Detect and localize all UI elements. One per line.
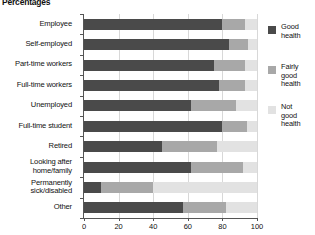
y-tick (80, 34, 84, 35)
category-label: Looking after home/family (30, 158, 72, 175)
bar-row (84, 100, 257, 111)
bar-row (84, 141, 257, 152)
y-tick (80, 116, 84, 117)
bar-segment (84, 202, 183, 213)
bar-segment (222, 19, 244, 30)
legend-swatch (268, 106, 276, 114)
legend-label: Good health (281, 23, 301, 40)
bar-segment (191, 162, 243, 173)
y-tick (80, 14, 84, 15)
bar-segment (222, 121, 246, 132)
chart-container: Percentages 020406080100 EmployeeSelf-em… (0, 0, 315, 235)
bar-segment (245, 19, 257, 30)
bar-segment (162, 141, 217, 152)
x-tick-label: 100 (251, 222, 264, 231)
x-tick-label: 40 (149, 222, 157, 231)
bar-row (84, 39, 257, 50)
bar-segment (84, 100, 191, 111)
x-tick-label: 60 (184, 222, 192, 231)
x-tick-label: 80 (218, 222, 226, 231)
bar-segment (248, 39, 257, 50)
y-tick (80, 177, 84, 178)
bar-segment (153, 182, 257, 193)
bar-row (84, 121, 257, 132)
y-tick (80, 218, 84, 219)
bar-segment (84, 162, 191, 173)
category-label: Self-employed (25, 40, 72, 48)
legend-swatch (268, 26, 276, 34)
bar-segment (245, 60, 257, 71)
bar-row (84, 202, 257, 213)
x-tick-label: 0 (82, 222, 86, 231)
x-tick (153, 218, 154, 221)
bar-segment (214, 60, 245, 71)
y-tick (80, 55, 84, 56)
bar-row (84, 60, 257, 71)
bar-segment (183, 202, 226, 213)
bar-segment (191, 100, 236, 111)
x-tick (188, 218, 189, 221)
x-axis-line (83, 218, 258, 219)
bar-segment (245, 80, 257, 91)
category-label: Retired (49, 142, 72, 150)
bar-row (84, 162, 257, 173)
bar-segment (236, 100, 257, 111)
bar-segment (101, 182, 153, 193)
bar-segment (229, 39, 248, 50)
category-label: Employee (39, 20, 72, 28)
bar-segment (84, 60, 214, 71)
bar-segment (84, 80, 219, 91)
category-label: Permanently sick/disabled (30, 179, 72, 196)
x-tick (119, 218, 120, 221)
legend-label: Fairly good health (281, 63, 301, 89)
category-label: Full-time student (18, 122, 72, 130)
x-tick (222, 218, 223, 221)
y-tick (80, 96, 84, 97)
x-tick (257, 218, 258, 221)
gridline (257, 14, 258, 218)
legend-swatch (268, 66, 276, 74)
bar-row (84, 80, 257, 91)
bar-segment (243, 162, 257, 173)
y-tick (80, 157, 84, 158)
bar-segment (219, 80, 245, 91)
category-label: Other (54, 203, 72, 211)
bar-segment (84, 141, 162, 152)
legend-label: Not good health (281, 103, 301, 129)
category-label: Full-time workers (17, 81, 72, 89)
bar-row (84, 19, 257, 30)
category-label: Unemployed (31, 101, 72, 109)
y-tick (80, 136, 84, 137)
y-tick (80, 75, 84, 76)
bar-segment (84, 39, 229, 50)
bar-segment (84, 182, 101, 193)
x-tick (84, 218, 85, 221)
bar-segment (247, 121, 257, 132)
x-tick-label: 20 (114, 222, 122, 231)
bar-segment (84, 19, 222, 30)
bar-row (84, 182, 257, 193)
y-tick (80, 198, 84, 199)
chart-title: Percentages (2, 0, 50, 7)
bar-segment (84, 121, 222, 132)
plot-area: 020406080100 (84, 14, 257, 218)
bar-segment (226, 202, 257, 213)
bar-segment (217, 141, 257, 152)
category-label: Part-time workers (15, 60, 72, 68)
